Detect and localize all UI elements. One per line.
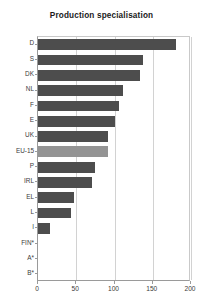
bar-row[interactable]: [38, 39, 189, 50]
bar-row[interactable]: [38, 162, 189, 173]
y-axis-tick: [35, 258, 37, 259]
bar-row[interactable]: [38, 101, 189, 112]
x-axis-label-0: 0: [35, 286, 39, 293]
x-axis-tick: [75, 281, 76, 284]
x-axis-tick: [37, 281, 38, 284]
y-axis-tick: [35, 197, 37, 198]
bar-i[interactable]: [38, 223, 50, 234]
y-axis-tick: [35, 105, 37, 106]
x-axis-label-150: 150: [146, 286, 157, 293]
bar-row[interactable]: [38, 269, 189, 280]
gridline: [191, 37, 192, 280]
bar-row[interactable]: [38, 192, 189, 203]
y-axis-label-f: F: [30, 102, 34, 108]
bar-row[interactable]: [38, 146, 189, 157]
y-axis-tick: [35, 44, 37, 45]
y-axis-category-labels: DSDKNLFEUKEU-15PIRLELLIFIN*A*B*: [0, 36, 37, 281]
y-axis-label-fin-: FIN*: [21, 240, 34, 246]
x-axis-tick: [190, 281, 191, 284]
y-axis-tick: [35, 227, 37, 228]
bar-d[interactable]: [38, 39, 176, 50]
chart-title: Production specialisation: [0, 11, 203, 20]
bar-row[interactable]: [38, 223, 189, 234]
bar-row[interactable]: [38, 177, 189, 188]
bar-dk[interactable]: [38, 70, 140, 81]
y-axis-label-uk: UK: [25, 132, 34, 138]
y-axis-label-i: I: [32, 224, 34, 230]
bar-el[interactable]: [38, 192, 74, 203]
bar-row[interactable]: [38, 85, 189, 96]
bar-row[interactable]: [38, 254, 189, 265]
y-axis-tick: [35, 74, 37, 75]
bars-layer: [38, 37, 189, 280]
bar-uk[interactable]: [38, 131, 108, 142]
bar-row[interactable]: [38, 208, 189, 219]
y-axis-label-el: EL: [26, 194, 34, 200]
x-axis-label-100: 100: [108, 286, 119, 293]
bar-row[interactable]: [38, 55, 189, 66]
y-axis-label-nl: NL: [26, 86, 34, 92]
y-axis-tick: [35, 273, 37, 274]
x-axis-tick: [114, 281, 115, 284]
bar-e[interactable]: [38, 116, 115, 127]
bar-row[interactable]: [38, 238, 189, 249]
bar-s[interactable]: [38, 55, 143, 66]
y-axis-tick: [35, 120, 37, 121]
bar-eu-15[interactable]: [38, 146, 108, 157]
bar-nl[interactable]: [38, 85, 123, 96]
y-axis-label-b-: B*: [27, 270, 34, 276]
y-axis-label-a-: A*: [27, 255, 34, 261]
bar-row[interactable]: [38, 116, 189, 127]
y-axis-label-dk: DK: [25, 71, 34, 77]
y-axis-tick: [35, 243, 37, 244]
bar-f[interactable]: [38, 101, 119, 112]
y-axis-label-d: D: [29, 40, 34, 46]
x-axis-tick: [152, 281, 153, 284]
y-axis-label-irl: IRL: [24, 178, 34, 184]
y-axis-label-eu-15: EU-15: [16, 148, 34, 154]
plot-area: [37, 36, 190, 281]
y-axis-label-p: P: [30, 163, 34, 169]
y-axis-tick: [35, 136, 37, 137]
x-axis: 050100150200: [37, 281, 190, 303]
bar-row[interactable]: [38, 70, 189, 81]
bar-row[interactable]: [38, 131, 189, 142]
bar-l[interactable]: [38, 208, 71, 219]
y-axis-label-l: L: [30, 209, 34, 215]
y-axis-tick: [35, 212, 37, 213]
bar-irl[interactable]: [38, 177, 92, 188]
y-axis-label-e: E: [30, 117, 34, 123]
x-axis-label-50: 50: [72, 286, 79, 293]
y-axis-tick: [35, 151, 37, 152]
y-axis-tick: [35, 59, 37, 60]
y-axis-label-s: S: [30, 56, 34, 62]
y-axis-tick: [35, 181, 37, 182]
bar-p[interactable]: [38, 162, 95, 173]
x-axis-label-200: 200: [184, 286, 195, 293]
production-specialisation-chart: Production specialisation DSDKNLFEUKEU-1…: [0, 0, 203, 303]
y-axis-tick: [35, 166, 37, 167]
y-axis-tick: [35, 90, 37, 91]
